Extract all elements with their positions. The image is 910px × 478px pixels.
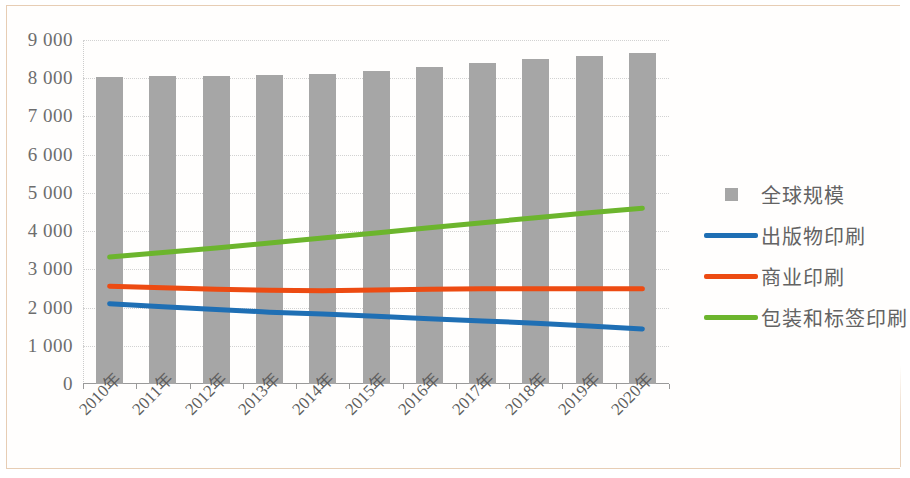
legend-key <box>701 315 761 320</box>
x-axis-tick <box>83 384 84 389</box>
x-axis-tick <box>616 384 617 389</box>
y-axis-tick-label: 6 000 <box>28 145 73 164</box>
x-axis-tick <box>349 384 350 389</box>
legend-item[interactable]: 全球规模 <box>701 174 910 215</box>
legend-item[interactable]: 包装和标签印刷 <box>701 297 910 338</box>
chart-legend: 全球规模出版物印刷商业印刷包装和标签印刷 <box>701 174 910 338</box>
line-series <box>110 304 643 329</box>
legend-line-icon <box>704 233 758 238</box>
line-series <box>110 208 643 257</box>
line-series <box>110 286 643 291</box>
legend-key <box>701 188 761 201</box>
legend-line-icon <box>704 274 758 279</box>
x-axis-labels: 2010年2011年2012年2013年2014年2015年2016年2017年… <box>83 392 683 472</box>
legend-item[interactable]: 出版物印刷 <box>701 215 910 256</box>
legend-item-label: 包装和标签印刷 <box>761 303 908 332</box>
x-axis-tick <box>456 384 457 389</box>
y-axis-tick-label: 4 000 <box>28 221 73 240</box>
x-axis-tick <box>190 384 191 389</box>
line-series-group <box>83 40 669 384</box>
x-axis-tick <box>403 384 404 389</box>
y-axis-tick-label: 0 <box>63 374 73 393</box>
page-frame: 9 0008 0007 0006 0005 0004 0003 0002 000… <box>6 5 900 469</box>
y-axis-tick-label: 5 000 <box>28 183 73 202</box>
x-axis-tick <box>669 384 670 389</box>
y-axis-tick-label: 1 000 <box>28 336 73 355</box>
legend-item[interactable]: 商业印刷 <box>701 256 910 297</box>
y-axis-tick-label: 3 000 <box>28 259 73 278</box>
x-axis-tick <box>136 384 137 389</box>
y-axis-tick-label: 8 000 <box>28 68 73 87</box>
chart-page: 9 0008 0007 0006 0005 0004 0003 0002 000… <box>0 0 910 478</box>
y-axis-labels: 9 0008 0007 0006 0005 0004 0003 0002 000… <box>7 40 73 384</box>
legend-key <box>701 274 761 279</box>
x-axis-tick <box>243 384 244 389</box>
legend-line-icon <box>704 315 758 320</box>
legend-item-label: 商业印刷 <box>761 262 845 291</box>
y-axis-tick-label: 2 000 <box>28 298 73 317</box>
legend-item-label: 出版物印刷 <box>761 221 866 250</box>
plot-area <box>83 40 669 384</box>
legend-square-icon <box>725 188 738 201</box>
x-axis-tick <box>562 384 563 389</box>
legend-item-label: 全球规模 <box>761 180 845 209</box>
x-axis-tick <box>509 384 510 389</box>
y-axis-tick-label: 7 000 <box>28 106 73 125</box>
x-axis-tick <box>296 384 297 389</box>
y-axis-tick-label: 9 000 <box>28 30 73 49</box>
legend-key <box>701 233 761 238</box>
